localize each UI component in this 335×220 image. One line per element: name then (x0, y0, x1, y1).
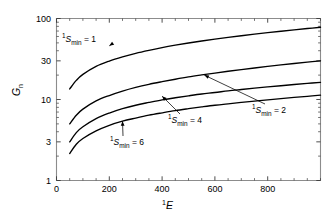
curve-series-1 (70, 27, 321, 89)
series-annotation-smin-6: 1Smin = 6 (110, 138, 144, 147)
y-axis-label-subscript: n (17, 84, 24, 88)
annotation-value: = 2 (274, 105, 286, 115)
annotation-value: = 6 (132, 137, 144, 147)
y-tick-label: 3 (46, 137, 51, 147)
data-curves (70, 27, 321, 153)
x-axis-label: 1E (0, 199, 335, 211)
x-axis-label-symbol: E (166, 199, 173, 211)
y-axis-label: Gn (10, 76, 22, 104)
annotation-subscript: min (177, 120, 187, 127)
x-tick-label: 600 (207, 184, 222, 194)
series-annotation-smin-1: 1Smin = 1 (62, 35, 96, 44)
y-tick-label: 30 (41, 56, 51, 66)
series-annotation-smin-4: 1Smin = 4 (168, 116, 202, 125)
annotation-value: = 1 (84, 34, 96, 44)
leader-arrow-smin-1-head (109, 42, 114, 46)
annotation-subscript: min (119, 142, 129, 149)
series-annotation-smin-2: 1Smin = 2 (252, 106, 286, 115)
x-tick-label: 0 (54, 184, 59, 194)
y-tick-label: 100 (36, 14, 51, 24)
y-tick-label: 1 (46, 176, 51, 186)
chart-figure: 0200400600800131030100 Gn 1E 1Smin = 1 1… (0, 0, 335, 220)
x-tick-label: 400 (155, 184, 170, 194)
x-tick-label: 800 (260, 184, 275, 194)
y-axis-label-symbol: G (10, 88, 22, 96)
leader-arrow-smin-2 (204, 75, 265, 104)
y-tick-label: 10 (41, 95, 51, 105)
x-tick-label: 200 (102, 184, 117, 194)
annotation-subscript: min (261, 110, 271, 117)
annotation-subscript: min (71, 39, 81, 46)
annotation-value: = 4 (190, 115, 202, 125)
